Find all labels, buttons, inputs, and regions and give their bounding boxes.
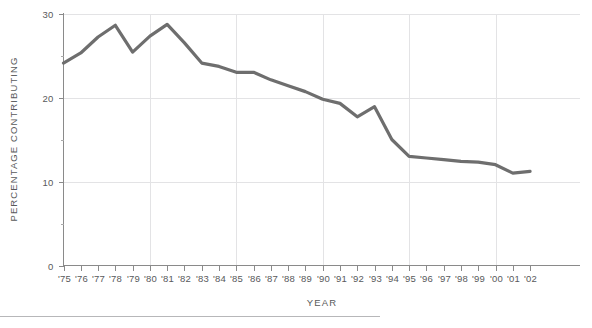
x-tick-label: '85 bbox=[230, 273, 243, 284]
x-tick-label: '84 bbox=[213, 273, 226, 284]
x-tick-label: '89 bbox=[299, 273, 312, 284]
x-tick-label: '98 bbox=[455, 273, 468, 284]
x-axis-title: YEAR bbox=[307, 297, 337, 308]
y-tick-label: 10 bbox=[43, 177, 54, 188]
chart-figure: 0102030 '75'76'77'78'79'80'81'82'83'84'8… bbox=[0, 0, 592, 328]
x-tick-label: '77 bbox=[92, 273, 105, 284]
x-tick-label: '92 bbox=[351, 273, 364, 284]
x-tick-label: '93 bbox=[369, 273, 382, 284]
x-tick-label: '80 bbox=[144, 273, 157, 284]
x-tick-label: '02 bbox=[524, 273, 537, 284]
x-tick-label: '91 bbox=[334, 273, 347, 284]
y-ticks-group bbox=[59, 15, 64, 267]
x-tick-label: '00 bbox=[490, 273, 503, 284]
y-tick-label: 20 bbox=[43, 93, 54, 104]
x-tick-label: '87 bbox=[265, 273, 278, 284]
x-tick-label: '99 bbox=[472, 273, 485, 284]
x-tick-label: '88 bbox=[282, 273, 295, 284]
percentage-contributing-line-chart: 0102030 '75'76'77'78'79'80'81'82'83'84'8… bbox=[0, 0, 592, 328]
x-tick-label: '76 bbox=[75, 273, 88, 284]
x-tick-label: '78 bbox=[109, 273, 122, 284]
x-tick-label: '90 bbox=[317, 273, 330, 284]
x-tick-label: '97 bbox=[438, 273, 451, 284]
x-tick-labels-group: '75'76'77'78'79'80'81'82'83'84'85'86'87'… bbox=[58, 273, 537, 284]
y-tick-label: 0 bbox=[48, 261, 53, 272]
x-tick-label: '95 bbox=[403, 273, 416, 284]
y-tick-label: 30 bbox=[43, 9, 54, 20]
x-tick-label: '96 bbox=[420, 273, 433, 284]
y-tick-labels-group: 0102030 bbox=[43, 9, 54, 272]
x-ticks-group bbox=[65, 266, 531, 271]
footer-divider bbox=[0, 316, 380, 317]
x-tick-label: '75 bbox=[58, 273, 71, 284]
x-tick-label: '94 bbox=[386, 273, 399, 284]
x-gridlines-group bbox=[151, 14, 497, 266]
x-tick-label: '79 bbox=[127, 273, 140, 284]
x-tick-label: '81 bbox=[161, 273, 174, 284]
x-tick-label: '82 bbox=[178, 273, 191, 284]
x-tick-label: '01 bbox=[507, 273, 520, 284]
y-axis-title: PERCENTAGE CONTRIBUTING bbox=[8, 57, 19, 222]
x-tick-label: '86 bbox=[248, 273, 261, 284]
x-tick-label: '83 bbox=[196, 273, 209, 284]
